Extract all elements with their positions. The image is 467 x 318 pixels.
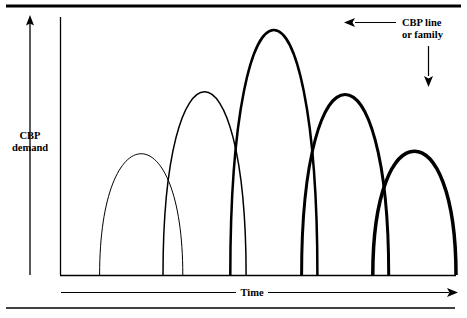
annotation-left-arrow (344, 18, 396, 27)
cbp-demand-diagram: CBP demand Time CBP line or family (0, 0, 467, 318)
demand-curve-1 (100, 154, 183, 275)
y-axis-label-line2: demand (12, 142, 48, 153)
y-axis-label-line1: CBP (20, 130, 42, 141)
demand-curve-3 (230, 30, 317, 275)
figure-container: CBP demand Time CBP line or family (0, 0, 467, 318)
annotation-down-arrow (424, 46, 433, 87)
annotation-label-line1: CBP line (402, 17, 442, 28)
x-axis-label: Time (240, 287, 263, 298)
annotation-label-line2: or family (402, 29, 444, 40)
